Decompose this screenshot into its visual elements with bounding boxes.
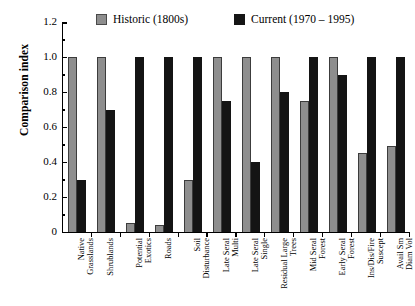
bar-current (77, 180, 86, 233)
x-axis-label-line: Residual Large (280, 238, 289, 289)
bar-current (309, 57, 318, 232)
x-axis-label-line: Soil (193, 238, 202, 252)
bar-group (381, 23, 410, 232)
x-axis-category-label: Avail SmDiam Vol (396, 238, 415, 304)
x-axis-label-line: Diam Vol (405, 238, 414, 270)
x-axis-label-line: Early Seral (338, 238, 347, 275)
bar-current (135, 57, 144, 232)
y-axis-tick-label: 0.2 (43, 190, 57, 203)
bar-chart-figure: Comparison index Historic (1800s) Curren… (0, 0, 415, 306)
bar-historic (358, 153, 367, 232)
bar-historic (387, 146, 396, 232)
y-axis-tick-label: 0.8 (43, 85, 57, 98)
bar-group (352, 23, 381, 232)
bar-historic (242, 57, 251, 232)
plot-area: 00.20.40.60.81.01.2 (62, 23, 410, 233)
x-axis-label-cell: Late SeralMulti (208, 238, 237, 304)
bar-historic (155, 225, 164, 232)
x-axis-category-labels: NativeGrasslandsShrublandsPotentialExoti… (63, 238, 410, 304)
y-axis-tick-label: 1.2 (43, 15, 57, 28)
x-axis-label-line: Ins/Dis/Fire (367, 238, 376, 278)
x-axis-tick (381, 233, 410, 237)
x-axis-label-cell: Avail SmDiam Vol (381, 238, 410, 304)
x-axis-label-cell: Residual LargeTrees (265, 238, 294, 304)
y-axis-tick-label: 1.0 (43, 50, 57, 63)
x-axis-label-line: Late Seral (222, 238, 231, 272)
bar-current (193, 57, 202, 232)
x-axis-tick (237, 233, 266, 237)
x-axis-tick (352, 233, 381, 237)
y-axis-tick-label: 0 (52, 225, 58, 238)
bar-current (280, 92, 289, 232)
x-axis-label-cell: NativeGrasslands (63, 238, 92, 304)
y-axis-tick-label: 0.6 (43, 120, 57, 133)
bar-group (237, 23, 266, 232)
x-axis-label-cell: SoilDisturbance (179, 238, 208, 304)
bar-historic (329, 57, 338, 232)
x-axis-tick (63, 233, 92, 237)
x-axis-label-cell: PotentialExotics (121, 238, 150, 304)
bar-group (323, 23, 352, 232)
bar-historic (68, 57, 77, 232)
bar-current (164, 57, 173, 232)
bar-current (106, 110, 115, 233)
x-axis-label-line: Late Seral (251, 238, 260, 272)
bar-current (251, 162, 260, 232)
x-axis-label-cell: Late SeralSingle (237, 238, 266, 304)
x-axis-tick (294, 233, 323, 237)
bar-historic (97, 57, 106, 232)
bar-group (150, 23, 179, 232)
y-axis-tick-label: 0.4 (43, 155, 57, 168)
bar-group (63, 23, 92, 232)
bar-current (222, 101, 231, 232)
x-axis-label-line: Potential (135, 238, 144, 268)
bar-group (121, 23, 150, 232)
x-axis-tick (265, 233, 294, 237)
x-axis-ticks (63, 233, 410, 237)
bar-groups (63, 23, 410, 232)
x-axis-tick (121, 233, 150, 237)
bar-current (396, 57, 405, 232)
x-axis-label-line: Avail Sm (396, 238, 405, 269)
x-axis-label-line: Roads (164, 238, 173, 259)
x-axis-tick (150, 233, 179, 237)
x-axis-tick (92, 233, 121, 237)
bar-group (92, 23, 121, 232)
bar-group (265, 23, 294, 232)
bar-group (179, 23, 208, 232)
bar-historic (126, 223, 135, 232)
x-axis-label-cell: Ins/Dis/FireSuscept (352, 238, 381, 304)
x-axis-tick (208, 233, 237, 237)
y-axis-title: Comparison index (18, 10, 30, 170)
x-axis-tick (179, 233, 208, 237)
bar-group (208, 23, 237, 232)
bar-historic (213, 57, 222, 232)
x-axis-label-cell: Early SeralForest (323, 238, 352, 304)
x-axis-tick (323, 233, 352, 237)
bar-historic (184, 180, 193, 233)
bar-historic (300, 101, 309, 232)
bar-current (367, 57, 376, 232)
bar-group (294, 23, 323, 232)
x-axis-label-line: Shrublands (106, 238, 115, 276)
x-axis-label-cell: Mid SeralForest (294, 238, 323, 304)
x-axis-label-cell: Roads (150, 238, 179, 304)
x-axis-label-cell: Shrublands (92, 238, 121, 304)
bar-historic (271, 57, 280, 232)
x-axis-label-line: Mid Seral (309, 238, 318, 271)
bar-current (338, 75, 347, 233)
